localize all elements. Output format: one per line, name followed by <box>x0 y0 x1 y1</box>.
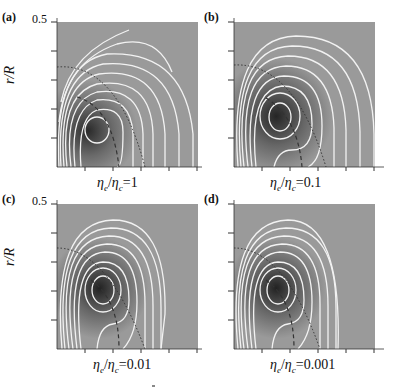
ratio-value: =0.1 <box>296 175 321 190</box>
panel-label-a: (a) <box>2 10 16 25</box>
xlabel-d: ηe/ηc=0.001 <box>270 357 335 375</box>
ytick-label-0-5: 0.5 <box>32 12 47 27</box>
y-axis-a <box>51 22 57 167</box>
ratio-value: =0.001 <box>296 357 335 372</box>
contour-plot-c <box>57 204 198 349</box>
xlabel-c: ηe/ηc=0.01 <box>93 357 151 375</box>
x-axis-a <box>57 167 198 173</box>
contour-plot-d <box>234 204 375 349</box>
x-axis-b <box>234 167 375 173</box>
eta-symbol: η <box>112 175 119 190</box>
eta-symbol: η <box>108 357 115 372</box>
ratio-value: =0.01 <box>119 357 151 372</box>
panel-label-c: (c) <box>2 192 15 207</box>
x-axis-d <box>234 349 375 355</box>
panel-a: (a) 0.5 r/R ηe/ηc=1 <box>57 22 198 167</box>
xlabel-a: ηe/ηc=1 <box>97 175 138 193</box>
panel-c: (c) 0.5 r/R ηe/ηc=0.01 <box>57 204 198 349</box>
y-axis-b <box>228 22 234 167</box>
subscript-e: e <box>277 183 281 193</box>
print-artifact <box>152 385 155 387</box>
panel-b: (b) ηe/ηc=0.1 <box>234 22 375 167</box>
y-axis-c <box>51 204 57 349</box>
xlabel-b: ηe/ηc=0.1 <box>270 175 321 193</box>
contour-plot-a <box>57 22 198 167</box>
subscript-e: e <box>277 365 281 375</box>
ylabel-c: r/R <box>2 248 18 266</box>
ratio-value: =1 <box>123 175 138 190</box>
x-axis-c <box>57 349 198 355</box>
subscript-e: e <box>100 365 104 375</box>
ytick-label-0-5: 0.5 <box>32 194 47 209</box>
subscript-e: e <box>104 183 108 193</box>
y-axis-d <box>228 204 234 349</box>
eta-symbol: η <box>270 357 277 372</box>
eta-symbol: η <box>285 175 292 190</box>
eta-symbol: η <box>285 357 292 372</box>
panel-label-d: (d) <box>204 192 219 207</box>
eta-symbol: η <box>270 175 277 190</box>
panel-d: (d) ηe/ηc=0.001 <box>234 204 375 349</box>
eta-symbol: η <box>97 175 104 190</box>
ylabel-a: r/R <box>2 66 18 84</box>
contour-plot-b <box>234 22 375 167</box>
panel-label-b: (b) <box>204 10 219 25</box>
eta-symbol: η <box>93 357 100 372</box>
